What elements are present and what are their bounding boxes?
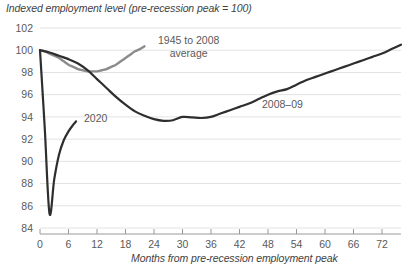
series-label-average: 1945 to 2008 average <box>158 34 219 60</box>
y-axis-tick-label: 90 <box>21 155 33 167</box>
series-line <box>40 50 76 215</box>
y-axis-tick-label: 98 <box>21 66 33 78</box>
y-axis-tick-label: 102 <box>15 22 33 34</box>
x-axis-tick-label: 60 <box>319 238 331 250</box>
x-axis-tick-label: 12 <box>91 238 103 250</box>
x-axis-tick-label: 42 <box>234 238 246 250</box>
x-axis-tick-label: 6 <box>66 238 72 250</box>
y-axis-tick-label: 96 <box>21 88 33 100</box>
y-axis-tick-label: 88 <box>21 177 33 189</box>
y-axis-tick-label: 86 <box>21 200 33 212</box>
y-axis-tick-label: 100 <box>15 44 33 56</box>
x-axis-tick-label: 66 <box>348 238 360 250</box>
x-axis-tick-label: 36 <box>205 238 217 250</box>
x-axis-tick-label: 24 <box>148 238 160 250</box>
x-axis-label: Months from pre-recession employment pea… <box>131 252 338 264</box>
series-label-2020: 2020 <box>84 112 107 125</box>
x-axis-tick-label: 30 <box>177 238 189 250</box>
x-axis-tick-label: 48 <box>262 238 274 250</box>
series-label-average-line2: average <box>158 47 219 60</box>
y-axis-tick-label: 84 <box>21 222 33 234</box>
y-axis-tick-label: 92 <box>21 133 33 145</box>
x-axis-tick-label: 0 <box>37 238 43 250</box>
chart-container: Indexed employment level (pre-recession … <box>0 0 409 276</box>
series-line <box>40 45 401 121</box>
series-label-2008-09: 2008–09 <box>262 98 303 111</box>
series-label-average-line1: 1945 to 2008 <box>158 34 219 47</box>
y-axis-tick-label: 94 <box>21 111 33 123</box>
x-axis-tick-label: 18 <box>120 238 132 250</box>
x-axis-tick-label: 72 <box>376 238 388 250</box>
x-axis-tick-label: 54 <box>291 238 303 250</box>
